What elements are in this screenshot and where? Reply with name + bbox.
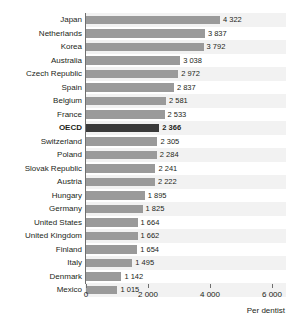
bar-chart: Japan4 322Netherlands3 837Korea3 792Aust… — [0, 0, 299, 331]
bar-row: Netherlands3 837 — [0, 27, 299, 41]
x-axis-tick-labels: 02 0004 0006 000 — [0, 289, 299, 301]
bar — [86, 16, 220, 25]
category-label: Switzerland — [41, 135, 82, 149]
bar-value-label: 1 895 — [148, 189, 167, 203]
x-axis-tick — [210, 284, 211, 288]
x-axis-tick-label: 4 000 — [200, 289, 220, 301]
bar-row: Denmark1 142 — [0, 270, 299, 284]
bar-value-label: 2 366 — [162, 121, 181, 135]
category-label: Germany — [49, 202, 82, 216]
category-label: Denmark — [50, 270, 82, 284]
bar-value-label: 2 284 — [160, 148, 179, 162]
bar — [86, 97, 166, 106]
bar-value-label: 1 662 — [141, 229, 160, 243]
bar — [86, 218, 138, 227]
bar-value-label: 1 664 — [141, 216, 160, 230]
bar-value-label: 2 241 — [158, 162, 177, 176]
bar-row: Australia3 038 — [0, 54, 299, 68]
bar — [86, 232, 138, 241]
bar-value-label: 3 792 — [207, 40, 226, 54]
bar-row: Czech Republic2 972 — [0, 67, 299, 81]
category-label: Japan — [60, 13, 82, 27]
category-label: Poland — [57, 148, 82, 162]
x-axis-title: Per dentist — [247, 305, 285, 317]
bar-row: United States1 664 — [0, 216, 299, 230]
bar — [86, 56, 180, 65]
bar-row: United Kingdom1 662 — [0, 229, 299, 243]
bar-value-label: 1 495 — [135, 256, 154, 270]
bar-row: Spain2 837 — [0, 81, 299, 95]
bar — [86, 43, 204, 52]
category-label: Austria — [57, 175, 82, 189]
bar-rows: Japan4 322Netherlands3 837Korea3 792Aust… — [0, 13, 299, 297]
bar — [86, 164, 155, 173]
bar-row: Germany1 825 — [0, 202, 299, 216]
bar — [86, 83, 174, 92]
category-label: Belgium — [53, 94, 82, 108]
x-axis-tick — [148, 284, 149, 288]
bar — [86, 70, 178, 79]
bar-value-label: 4 322 — [223, 13, 242, 27]
category-label: Hungary — [52, 189, 82, 203]
category-label: Italy — [67, 256, 82, 270]
bar-row: Italy1 495 — [0, 256, 299, 270]
bar-row: Finland1 654 — [0, 243, 299, 257]
bar-value-label: 1 654 — [140, 243, 159, 257]
bar-value-label: 2 533 — [168, 108, 187, 122]
bar — [86, 245, 137, 254]
category-label: Finland — [56, 243, 82, 257]
x-axis-tick — [272, 284, 273, 288]
bar-value-label: 2 581 — [169, 94, 188, 108]
category-label: United Kingdom — [25, 229, 82, 243]
bar-row: Hungary1 895 — [0, 189, 299, 203]
bar-row: Switzerland2 305 — [0, 135, 299, 149]
bar-value-label: 2 837 — [177, 81, 196, 95]
bar — [86, 151, 157, 160]
category-label: Australia — [51, 54, 82, 68]
bar-row: Korea3 792 — [0, 40, 299, 54]
bar — [86, 110, 165, 119]
bar-row: Slovak Republic2 241 — [0, 162, 299, 176]
bar-row: OECD2 366 — [0, 121, 299, 135]
bar-value-label: 3 038 — [183, 54, 202, 68]
category-label: Netherlands — [39, 27, 82, 41]
x-axis-tick-label: 2 000 — [138, 289, 158, 301]
bar — [86, 259, 132, 268]
bar-value-label: 1 825 — [146, 202, 165, 216]
bar-value-label: 2 222 — [158, 175, 177, 189]
bar-value-label: 1 142 — [124, 270, 143, 284]
category-label: Slovak Republic — [25, 162, 82, 176]
bar — [86, 137, 157, 146]
x-axis-tick — [86, 284, 87, 288]
bar-row: Poland2 284 — [0, 148, 299, 162]
bar-row: Austria2 222 — [0, 175, 299, 189]
bar-row: Belgium2 581 — [0, 94, 299, 108]
bar-value-label: 2 305 — [160, 135, 179, 149]
category-label: United States — [34, 216, 82, 230]
category-label: France — [57, 108, 82, 122]
bar — [86, 124, 159, 133]
x-axis-tick-label: 0 — [84, 289, 88, 301]
bar — [86, 178, 155, 187]
x-axis-tick-label: 6 000 — [262, 289, 282, 301]
bar-value-label: 3 837 — [208, 27, 227, 41]
category-label: Czech Republic — [26, 67, 82, 81]
category-label: OECD — [59, 121, 82, 135]
category-label: Korea — [61, 40, 82, 54]
bar-value-label: 2 972 — [181, 67, 200, 81]
bar — [86, 191, 145, 200]
bar — [86, 205, 143, 214]
category-label: Spain — [62, 81, 82, 95]
bar — [86, 29, 205, 38]
bar — [86, 272, 121, 281]
bar-row: Japan4 322 — [0, 13, 299, 27]
bar-row: France2 533 — [0, 108, 299, 122]
